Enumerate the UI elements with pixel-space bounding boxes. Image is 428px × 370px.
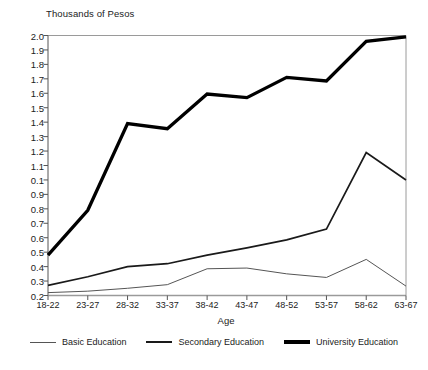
y-tick-label: 1.5: [31, 102, 44, 113]
y-tick-label: 1.3: [31, 131, 44, 142]
line-swatch-icon: [30, 342, 56, 343]
y-tick-label: 0.9: [31, 189, 44, 200]
chart-legend: Basic EducationSecondary EducationUniver…: [0, 337, 428, 347]
line-swatch-icon: [284, 340, 310, 343]
legend-item-secondary-education: Secondary Education: [146, 337, 264, 347]
x-tick-label: 28-32: [116, 300, 139, 310]
x-tick-label: 53-57: [315, 300, 338, 310]
y-axis-tick-labels: 2.01.91.81.71.61.51.41.31.21.10.10.90.80…: [0, 0, 44, 370]
legend-label: Secondary Education: [178, 337, 264, 347]
x-tick-label: 43-47: [235, 300, 258, 310]
series-line-basic-education: [48, 259, 406, 292]
y-tick-label: 1.4: [31, 117, 44, 128]
y-tick-label: 0.6: [31, 232, 44, 243]
y-tick-label: 1.8: [31, 59, 44, 70]
legend-item-basic-education: Basic Education: [30, 337, 127, 347]
y-tick-marks: [44, 36, 49, 296]
line-swatch-icon: [146, 341, 172, 343]
y-tick-label: 1.1: [31, 160, 44, 171]
y-tick-label: 1.9: [31, 44, 44, 55]
x-tick-label: 63-67: [394, 300, 417, 310]
line-chart-figure: Thousands of Pesos 2.01.91.81.71.61.51.4…: [0, 0, 428, 370]
y-tick-label: 0.8: [31, 203, 44, 214]
y-tick-label: 0.5: [31, 247, 44, 258]
x-tick-label: 33-37: [156, 300, 179, 310]
x-tick-label: 48-52: [275, 300, 298, 310]
y-tick-label: 1.7: [31, 73, 44, 84]
y-tick-label: 0.3: [31, 276, 44, 287]
x-tick-label: 18-22: [36, 300, 59, 310]
x-tick-label: 38-42: [196, 300, 219, 310]
y-tick-label: 0.7: [31, 218, 44, 229]
plot-frame: [48, 36, 406, 296]
legend-item-university-education: University Education: [284, 337, 398, 347]
y-tick-label: 0.4: [31, 261, 44, 272]
legend-label: Basic Education: [62, 337, 127, 347]
x-axis-title: Age: [218, 315, 235, 326]
series-line-university-education: [48, 37, 406, 255]
y-tick-label: 1.2: [31, 146, 44, 157]
y-tick-label: 0.1: [31, 174, 44, 185]
x-tick-label: 58-62: [355, 300, 378, 310]
legend-label: University Education: [316, 337, 398, 347]
plot-area: [0, 0, 428, 370]
x-tick-label: 23-27: [76, 300, 99, 310]
y-tick-label: 1.6: [31, 88, 44, 99]
y-tick-label: 2.0: [31, 30, 44, 41]
